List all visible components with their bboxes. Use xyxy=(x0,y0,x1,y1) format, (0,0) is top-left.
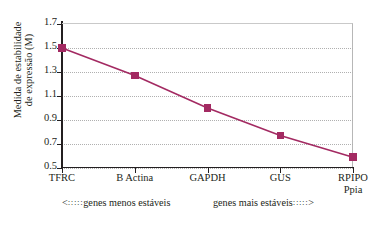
data-point-marker xyxy=(131,72,139,80)
data-point-marker xyxy=(58,44,66,52)
left-dot-lead: ::::: xyxy=(68,197,84,207)
left-note-text: genes menos estáveis xyxy=(83,197,170,208)
right-arrow-glyph: > xyxy=(308,197,314,208)
y-axis-tick-label: 1.1 xyxy=(27,89,57,100)
annotation-more-stable: genes mais estáveis:::::> xyxy=(213,196,314,209)
y-axis-tick-label: 1.3 xyxy=(27,65,57,76)
y-axis-tick-label: 0.9 xyxy=(27,113,57,124)
annotation-less-stable: <:::::genes menos estáveis xyxy=(62,196,170,209)
y-axis-tick-label: 1.5 xyxy=(27,41,57,52)
data-point-marker xyxy=(277,132,285,140)
x-axis-tick-label-line: RPIPO xyxy=(308,172,381,184)
data-point-marker xyxy=(349,153,357,161)
x-axis-tick-label: RPIPOPpia xyxy=(308,172,381,195)
x-axis-tick-label-line: Ppia xyxy=(308,184,381,196)
y-axis-tick-label: 0.5 xyxy=(27,161,57,172)
y-axis-title-line-1: Medida de estabilidade xyxy=(12,22,23,119)
plot-area xyxy=(62,23,353,167)
chart-figure: Medida de estabilidade de expressão (M) … xyxy=(0,0,381,229)
y-axis-tick-label: 0.7 xyxy=(27,137,57,148)
data-point-marker xyxy=(204,104,212,112)
right-dot-lead: ::::: xyxy=(293,197,309,207)
right-note-text: genes mais estáveis xyxy=(213,197,293,208)
series-line xyxy=(62,24,353,168)
y-axis-tick-label: 1.7 xyxy=(27,17,57,28)
